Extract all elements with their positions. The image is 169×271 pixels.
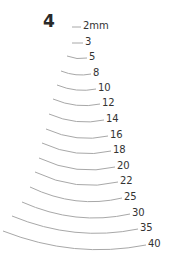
size-label: 25 [124, 192, 137, 202]
size-label: 40 [148, 239, 161, 249]
size-label: 30 [132, 208, 145, 218]
sweep-arc [39, 158, 115, 170]
size-label: 10 [98, 83, 111, 93]
size-label: 35 [140, 223, 153, 233]
size-label: 2mm [83, 21, 109, 31]
sweep-arc [30, 187, 122, 202]
sweep-arc [57, 85, 96, 90]
size-label: 20 [117, 161, 130, 171]
sweep-arc [53, 99, 100, 106]
sweep-arc [49, 114, 104, 122]
sweep-arc [35, 172, 118, 185]
size-label: 12 [102, 98, 115, 108]
size-label: 18 [113, 145, 126, 155]
size-label: 22 [120, 176, 133, 186]
size-label: 3 [85, 37, 91, 47]
sweep-arc [12, 216, 138, 233]
size-label: 16 [110, 130, 123, 140]
sweep-arc [46, 129, 108, 138]
sweep-arc [61, 71, 91, 75]
sweep-arc [42, 143, 111, 154]
sweep-arc [22, 202, 130, 218]
sweep-arc [67, 56, 87, 59]
size-label: 8 [93, 68, 99, 78]
size-label: 5 [89, 52, 95, 62]
sweep-arc [3, 231, 146, 250]
size-label: 14 [106, 114, 119, 124]
